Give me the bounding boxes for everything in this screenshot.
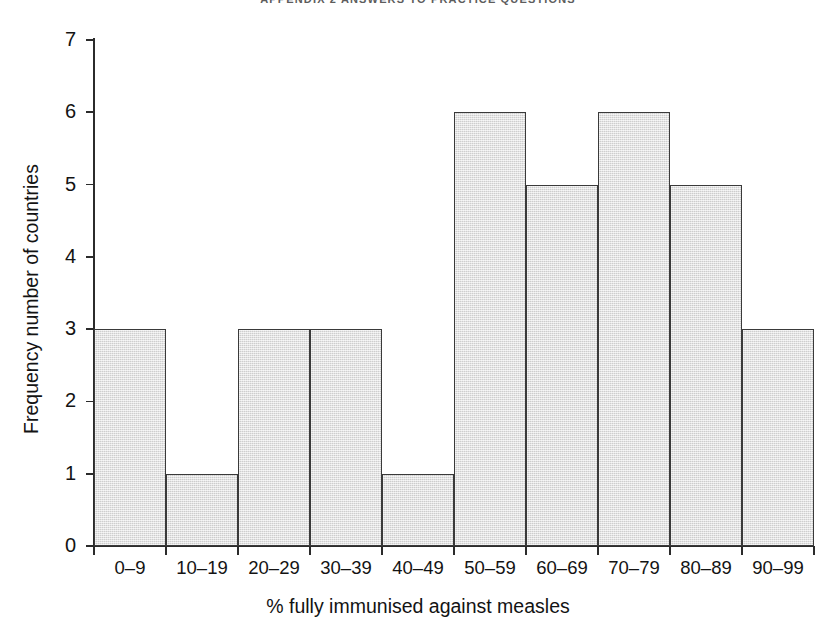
x-axis-tick-label: 20–29 (238, 558, 310, 578)
y-axis-tick (86, 473, 94, 475)
x-axis-tick (597, 546, 599, 555)
x-axis-tick (309, 546, 311, 555)
x-axis-tick (381, 546, 383, 555)
x-axis-tick-label: 0–9 (94, 558, 166, 578)
x-axis-tick-label: 70–79 (598, 558, 670, 578)
y-axis-title: Frequency number of countries (19, 46, 43, 552)
y-axis-tick (86, 39, 94, 41)
y-axis-tick (86, 111, 94, 113)
x-axis-tick (669, 546, 671, 555)
y-axis-tick (86, 401, 94, 403)
plot-area (94, 40, 814, 546)
x-axis-tick (813, 546, 815, 555)
x-axis-tick-label: 40–49 (382, 558, 454, 578)
histogram-bar (166, 474, 238, 546)
x-axis-tick-label: 80–89 (670, 558, 742, 578)
x-axis-tick (741, 546, 743, 555)
x-axis-tick-label: 90–99 (742, 558, 814, 578)
x-axis-tick (93, 546, 95, 555)
histogram-bar (742, 329, 814, 546)
histogram-bar (382, 474, 454, 546)
x-axis-tick-label: 10–19 (166, 558, 238, 578)
x-axis-tick (525, 546, 527, 555)
x-axis-tick (453, 546, 455, 555)
histogram-bar (310, 329, 382, 546)
histogram-bar (598, 112, 670, 546)
histogram-bar (238, 329, 310, 546)
histogram-bar (526, 185, 598, 546)
histogram-bar (670, 185, 742, 546)
histogram-bar (94, 329, 166, 546)
x-axis-title: % fully immunised against measles (0, 594, 836, 618)
y-axis-tick (86, 328, 94, 330)
y-axis-tick (86, 184, 94, 186)
x-axis-tick-label: 50–59 (454, 558, 526, 578)
x-axis-tick-label: 30–39 (310, 558, 382, 578)
histogram-figure: 01234567 0–910–1920–2930–3940–4950–5960–… (0, 0, 836, 644)
x-axis-tick (165, 546, 167, 555)
x-axis-tick-label: 60–69 (526, 558, 598, 578)
histogram-bar (454, 112, 526, 546)
x-axis-tick (237, 546, 239, 555)
y-axis-tick (86, 256, 94, 258)
